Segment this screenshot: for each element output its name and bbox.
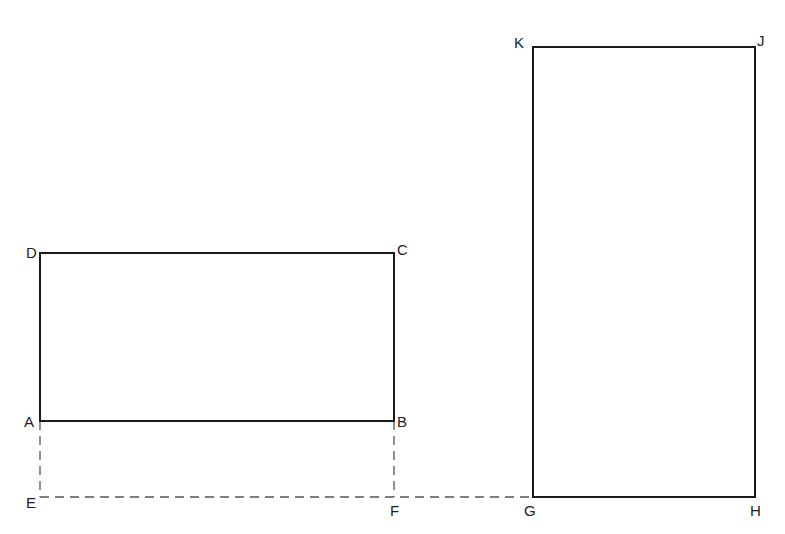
label-e: E bbox=[26, 494, 36, 511]
rectangle-abcd bbox=[40, 253, 394, 421]
geometry-diagram: A B C D E F G H J K bbox=[0, 0, 785, 534]
label-j: J bbox=[757, 32, 765, 49]
label-f: F bbox=[390, 502, 399, 519]
label-g: G bbox=[524, 502, 536, 519]
label-c: C bbox=[397, 241, 408, 258]
label-k: K bbox=[514, 34, 524, 51]
label-a: A bbox=[24, 413, 34, 430]
label-d: D bbox=[26, 244, 37, 261]
label-b: B bbox=[397, 413, 407, 430]
rectangle-ghjk bbox=[533, 47, 755, 497]
label-h: H bbox=[750, 502, 761, 519]
